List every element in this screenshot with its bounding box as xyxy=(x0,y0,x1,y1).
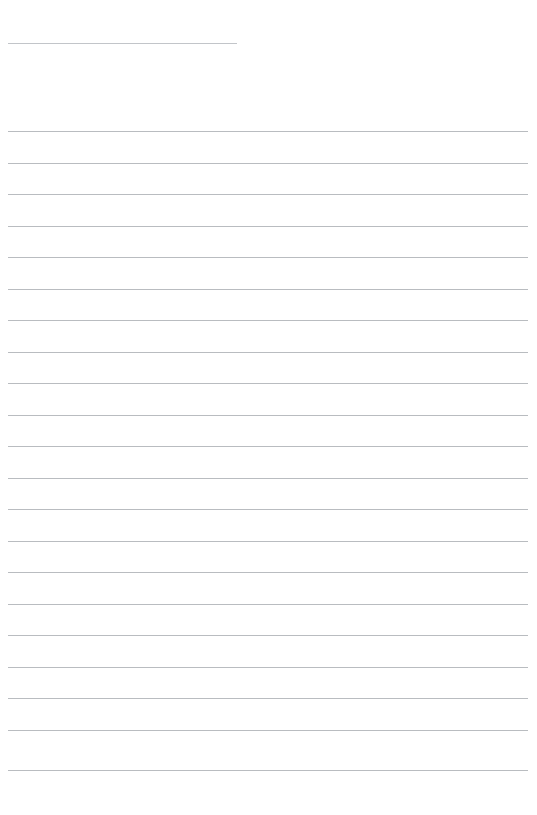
body-rule[interactable] xyxy=(8,509,528,510)
body-rule[interactable] xyxy=(8,415,528,416)
body-rule[interactable] xyxy=(8,320,528,321)
body-rule[interactable] xyxy=(8,541,528,542)
body-rule[interactable] xyxy=(8,352,528,353)
body-rule[interactable] xyxy=(8,257,528,258)
body-rule[interactable] xyxy=(8,730,528,731)
body-rule[interactable] xyxy=(8,226,528,227)
body-rule[interactable] xyxy=(8,572,528,573)
body-rule[interactable] xyxy=(8,667,528,668)
title-rule[interactable] xyxy=(8,43,237,44)
body-rule[interactable] xyxy=(8,770,528,771)
body-rule[interactable] xyxy=(8,289,528,290)
body-rule[interactable] xyxy=(8,698,528,699)
body-rule[interactable] xyxy=(8,604,528,605)
body-rule[interactable] xyxy=(8,131,528,132)
body-rule[interactable] xyxy=(8,478,528,479)
body-rule[interactable] xyxy=(8,194,528,195)
writing-area[interactable] xyxy=(0,0,537,815)
body-rule[interactable] xyxy=(8,383,528,384)
body-rule[interactable] xyxy=(8,446,528,447)
body-rule[interactable] xyxy=(8,163,528,164)
lined-paper-page xyxy=(0,0,537,815)
body-rule[interactable] xyxy=(8,635,528,636)
